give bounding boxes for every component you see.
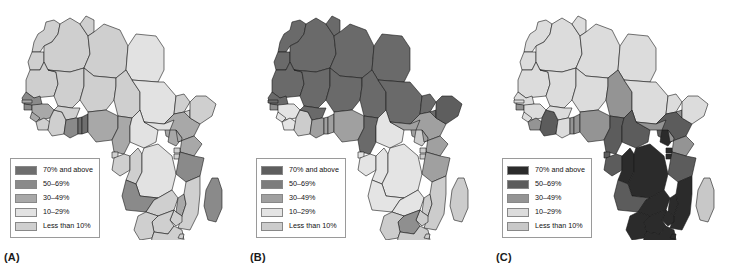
country-rwanda [174, 148, 180, 153]
panel-a: 70% and above 50–69% 30–49% 10–29% Less … [0, 0, 246, 266]
legend-label-10-29: 10–29% [43, 208, 69, 215]
legend-row: 10–29% [507, 205, 587, 219]
legend-label-less-than-10: Less than 10% [43, 222, 91, 229]
country-gambia [268, 100, 278, 103]
country-madagascar [696, 178, 714, 222]
legend-row: 10–29% [261, 205, 341, 219]
legend-label-30-49: 30–49% [43, 194, 69, 201]
country-benin [328, 114, 334, 134]
legend-label-50-69: 50–69% [535, 180, 561, 187]
africa-maps-figure: 70% and above 50–69% 30–49% 10–29% Less … [0, 0, 738, 266]
legend-label-70-and-above: 70% and above [43, 166, 93, 173]
country-drc [628, 144, 668, 198]
country-togo [324, 117, 328, 134]
country-gambia [514, 100, 524, 103]
legend-row: 50–69% [507, 177, 587, 191]
legend-swatch-50-69 [507, 180, 529, 189]
country-rwanda [420, 148, 426, 153]
legend-row: Less than 10% [15, 219, 95, 233]
legend-label-30-49: 30–49% [289, 194, 315, 201]
legend-row: 70% and above [15, 163, 95, 177]
country-guinea-bissau [516, 104, 524, 110]
country-egypt [618, 34, 656, 82]
country-egypt [372, 34, 410, 82]
legend-label-10-29: 10–29% [535, 208, 561, 215]
legend-row: 50–69% [15, 177, 95, 191]
legend-row: 30–49% [261, 191, 341, 205]
country-rwanda [666, 148, 672, 153]
legend-b: 70% and above 50–69% 30–49% 10–29% Less … [256, 158, 346, 238]
legend-row: 10–29% [15, 205, 95, 219]
panel-label-c: (C) [496, 252, 512, 263]
country-egypt [126, 34, 164, 82]
country-drc [136, 144, 176, 198]
legend-label-30-49: 30–49% [535, 194, 561, 201]
legend-swatch-less-than-10 [507, 222, 529, 231]
country-madagascar [204, 178, 222, 222]
country-benin [574, 114, 580, 134]
legend-swatch-50-69 [15, 180, 37, 189]
country-guinea-bissau [24, 104, 32, 110]
legend-swatch-10-29 [507, 208, 529, 217]
legend-label-70-and-above: 70% and above [535, 166, 585, 173]
legend-label-less-than-10: Less than 10% [289, 222, 337, 229]
country-somalia [190, 96, 216, 124]
legend-swatch-50-69 [261, 180, 283, 189]
country-ghana [64, 118, 78, 138]
legend-row: Less than 10% [261, 219, 341, 233]
panel-label-b: (B) [250, 252, 266, 263]
legend-swatch-10-29 [261, 208, 283, 217]
country-ghana [310, 118, 324, 138]
legend-a: 70% and above 50–69% 30–49% 10–29% Less … [10, 158, 100, 238]
legend-label-10-29: 10–29% [289, 208, 315, 215]
country-guinea-bissau [270, 104, 278, 110]
legend-label-50-69: 50–69% [289, 180, 315, 187]
legend-row: 30–49% [15, 191, 95, 205]
legend-row: Less than 10% [507, 219, 587, 233]
legend-swatch-30-49 [261, 194, 283, 203]
legend-swatch-30-49 [15, 194, 37, 203]
country-drc [382, 144, 422, 198]
legend-swatch-less-than-10 [261, 222, 283, 231]
legend-swatch-less-than-10 [15, 222, 37, 231]
legend-swatch-30-49 [507, 194, 529, 203]
panel-b: 70% and above 50–69% 30–49% 10–29% Less … [246, 0, 492, 266]
country-gambia [22, 100, 32, 103]
legend-swatch-10-29 [15, 208, 37, 217]
legend-row: 70% and above [261, 163, 341, 177]
legend-swatch-70-and-above [507, 166, 529, 175]
country-somalia [682, 96, 708, 124]
legend-label-less-than-10: Less than 10% [535, 222, 583, 229]
panel-label-a: (A) [4, 252, 20, 263]
legend-swatch-70-and-above [261, 166, 283, 175]
country-somalia [436, 96, 462, 124]
legend-label-50-69: 50–69% [43, 180, 69, 187]
country-madagascar [450, 178, 468, 222]
country-togo [78, 117, 82, 134]
country-togo [570, 117, 574, 134]
legend-row: 50–69% [261, 177, 341, 191]
panel-c: 70% and above 50–69% 30–49% 10–29% Less … [492, 0, 738, 266]
legend-swatch-70-and-above [15, 166, 37, 175]
legend-row: 30–49% [507, 191, 587, 205]
country-benin [82, 114, 88, 134]
legend-row: 70% and above [507, 163, 587, 177]
country-ghana [556, 118, 570, 138]
legend-c: 70% and above 50–69% 30–49% 10–29% Less … [502, 158, 592, 238]
legend-label-70-and-above: 70% and above [289, 166, 339, 173]
